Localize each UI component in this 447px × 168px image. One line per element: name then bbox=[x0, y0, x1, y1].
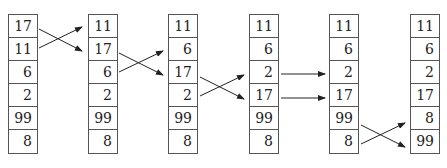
swap-arrows-4 bbox=[361, 123, 405, 147]
transition-arrows bbox=[0, 0, 447, 168]
swap-arrows-3 bbox=[200, 75, 244, 99]
swap-arrows-2 bbox=[119, 51, 163, 75]
swap-arrows-1 bbox=[39, 27, 82, 51]
straight-arrows bbox=[281, 74, 325, 98]
